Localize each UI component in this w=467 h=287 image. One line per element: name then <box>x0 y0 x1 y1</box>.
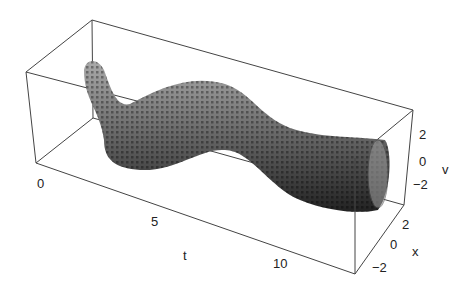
t-tick-10: 10 <box>273 257 287 270</box>
x-tick-0: 0 <box>390 238 397 251</box>
x-tick-m2: −2 <box>372 261 387 274</box>
t-tick-5: 5 <box>151 215 158 228</box>
t-tick-0: 0 <box>37 177 44 190</box>
x-axis-label: x <box>412 245 419 258</box>
v-tick-2: 2 <box>419 128 426 141</box>
x-tick-2: 2 <box>402 218 409 231</box>
v-tick-0: 0 <box>419 155 426 168</box>
v-tick-m2: −2 <box>413 178 428 191</box>
t-axis-label: t <box>183 249 187 262</box>
tube-surface <box>84 61 390 212</box>
v-axis-label: v <box>442 163 449 176</box>
